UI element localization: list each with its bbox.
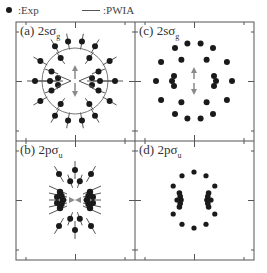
panel-c-label: (c) 2sσg [139, 23, 179, 41]
panel-d-label: (d) 2pσu [139, 142, 181, 160]
figure-canvas [0, 0, 267, 273]
panel-b-label: (b) 2pσu [20, 142, 62, 160]
panel-a-plot [27, 34, 123, 129]
panel-b-plot [49, 161, 101, 239]
panel-c-plot [153, 41, 235, 122]
panel-d-plot [171, 169, 218, 230]
panel-a-label: (a) 2sσg [20, 23, 60, 41]
